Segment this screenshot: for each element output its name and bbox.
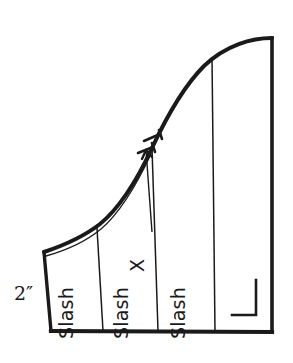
leader-arrow-line	[146, 150, 152, 232]
slash-label-2: Slash	[112, 287, 131, 339]
slash-division-line-3	[212, 57, 215, 332]
outline-inner-curve	[46, 154, 151, 256]
outline-left-edge	[44, 252, 51, 331]
slash-label-1: Slash	[57, 287, 76, 339]
slash-division-line-2	[152, 148, 158, 331]
right-angle-corner-mark-icon	[232, 280, 256, 315]
outline-bottom-edge	[51, 331, 272, 332]
pattern-figure	[0, 0, 293, 363]
slash-label-3: Slash	[169, 287, 188, 339]
x-marker-label: X	[128, 259, 147, 272]
measurement-label-2-inch: 2″	[14, 284, 33, 303]
diagram-canvas: 2″ Slash Slash Slash X	[0, 0, 293, 363]
slash-division-line-1	[97, 228, 103, 331]
outline-top-curve	[44, 38, 272, 252]
